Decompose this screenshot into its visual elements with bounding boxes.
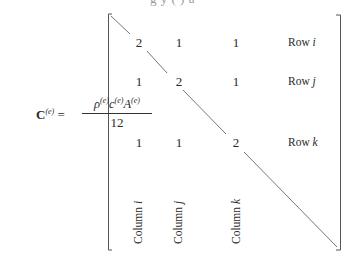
matrix-cell-i-j: 1 <box>172 35 186 51</box>
left-bracket <box>109 14 113 250</box>
matrix-cell-i-i: 2 <box>132 35 146 51</box>
row-label-i: Row i <box>288 36 316 48</box>
column-label-k: Column k <box>230 199 242 244</box>
column-label-j: Column j <box>172 201 184 244</box>
matrix-cell-j-i: 1 <box>132 74 146 90</box>
right-bracket <box>336 15 341 250</box>
fraction-numerator: ρ(e)c(e)A(e) <box>82 96 152 114</box>
matrix-cell-k-i: 1 <box>132 135 146 151</box>
equation-lhs: C(e) = <box>36 107 65 123</box>
matrix-cell-j-j: 2 <box>172 74 186 90</box>
row-label-j: Row j <box>288 75 316 87</box>
matrix-cell-i-k: 1 <box>229 35 243 51</box>
equation-fraction: ρ(e)c(e)A(e) 12 <box>82 96 152 131</box>
matrix-cell-k-k: 2 <box>229 135 243 151</box>
matrix-cell-k-j: 1 <box>172 135 186 151</box>
fraction-denominator: 12 <box>82 114 152 131</box>
row-label-k: Row k <box>288 136 318 148</box>
column-label-i: Column i <box>132 201 144 244</box>
matrix-cell-j-k: 1 <box>229 74 243 90</box>
